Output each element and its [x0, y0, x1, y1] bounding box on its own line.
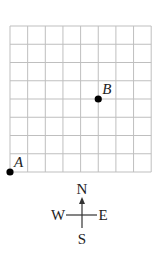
compass-south-label: S — [78, 231, 86, 247]
grid — [10, 26, 151, 172]
point-a-label: A — [13, 154, 24, 170]
point-b-label: B — [102, 81, 111, 97]
compass-rose: N S W E — [51, 181, 108, 247]
compass-west-label: W — [51, 207, 66, 223]
compass-east-label: E — [98, 207, 107, 223]
point-a-marker — [6, 168, 13, 175]
north-arrow-icon — [79, 197, 85, 204]
point-b-marker — [95, 95, 102, 102]
coordinate-grid-diagram: A B N S W E — [0, 0, 163, 258]
compass-north-label: N — [77, 181, 88, 197]
